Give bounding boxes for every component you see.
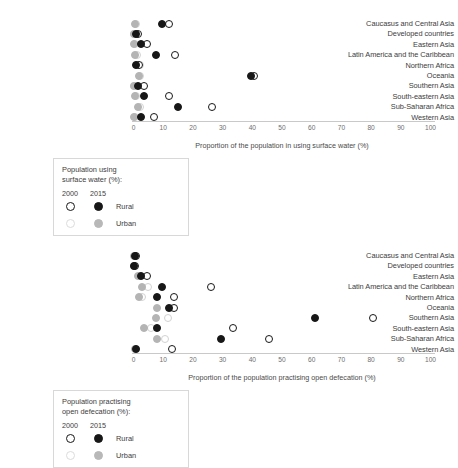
data-point-rural-2015	[158, 20, 166, 28]
legend-title-open-defecation: Population practising open defecation (%…	[62, 397, 182, 416]
data-point-rural-2015	[134, 82, 142, 90]
category-label-south-eastern-asia: South-eastern Asia	[330, 323, 458, 334]
legend-col-2015: 2015	[90, 189, 106, 198]
data-point-rural-2015	[311, 314, 319, 322]
chart-row: Northern Africa	[0, 60, 458, 71]
data-point-rural-2000	[171, 51, 179, 59]
data-point-rural-2015	[174, 103, 182, 111]
x-axis-line-open-defecation	[132, 353, 435, 354]
legend-title-line1: Population practising	[62, 397, 131, 406]
x-tick-label: 60	[308, 356, 315, 363]
category-label-eastern-asia: Eastern Asia	[330, 39, 458, 50]
data-point-rural-2000	[170, 293, 178, 301]
x-tick-label: 0	[132, 356, 136, 363]
chart-row: South-eastern Asia	[0, 91, 458, 102]
legend-label-rural: Rural	[116, 202, 134, 211]
plot-area-surface-water: Caucasus and Central AsiaDeveloped count…	[0, 0, 458, 120]
legend-label-urban: Urban	[116, 219, 136, 228]
legend-marker-rural-2000	[66, 202, 75, 211]
legend-marker-rural-2015	[94, 202, 103, 211]
legend-open-defecation: Population practising open defecation (%…	[53, 390, 189, 468]
x-tick-label: 50	[278, 124, 285, 131]
data-point-urban-2015	[140, 324, 148, 332]
category-label-latin-america-and-the-caribbean: Latin America and the Caribbean	[330, 281, 458, 292]
category-label-developed-countries: Developed countries	[330, 260, 458, 271]
x-axis-title-open-defecation: Proportion of the population practising …	[114, 373, 451, 382]
category-label-northern-africa: Northern Africa	[330, 60, 458, 71]
x-tick-label: 40	[249, 356, 256, 363]
x-tick-label: 50	[278, 356, 285, 363]
data-point-rural-2015	[153, 324, 161, 332]
data-point-rural-2000	[208, 103, 216, 111]
chart-row: Caucasus and Central Asia	[0, 18, 458, 29]
data-point-rural-2000	[369, 314, 377, 322]
x-tick-label: 90	[397, 124, 404, 131]
data-point-rural-2000	[165, 92, 173, 100]
x-tick-label: 10	[160, 124, 167, 131]
legend-marker-urban-2015	[94, 451, 103, 460]
chart-row: Oceania	[0, 70, 458, 81]
data-point-rural-2015	[217, 335, 225, 343]
legend-surface-water: Population using surface water (%): 2000…	[53, 158, 189, 236]
data-point-rural-2000	[165, 20, 173, 28]
data-point-rural-2000	[229, 324, 237, 332]
x-tick-label: 70	[338, 124, 345, 131]
legend-title-surface-water: Population using surface water (%):	[62, 165, 182, 184]
x-axis-title-surface-water: Proportion of the population in using su…	[114, 141, 451, 150]
legend-marker-rural-2000	[66, 434, 75, 443]
legend-label-urban: Urban	[116, 451, 136, 460]
x-tick-label: 30	[219, 356, 226, 363]
chart-row: Latin America and the Caribbean	[0, 49, 458, 60]
category-label-south-eastern-asia: South-eastern Asia	[330, 91, 458, 102]
x-tick-label: 70	[338, 356, 345, 363]
data-point-urban-2000	[161, 335, 169, 343]
x-tick-label: 60	[308, 124, 315, 131]
x-tick-label: 80	[367, 356, 374, 363]
category-label-caucasus-and-central-asia: Caucasus and Central Asia	[330, 250, 458, 261]
data-point-rural-2015	[158, 283, 166, 291]
chart-row: Developed countries	[0, 260, 458, 271]
category-label-sub-saharan-africa: Sub-Saharan Africa	[330, 101, 458, 112]
category-label-oceania: Oceania	[330, 70, 458, 81]
x-axis-line-surface-water	[132, 121, 435, 122]
x-tick-label: 40	[249, 124, 256, 131]
data-point-rural-2015	[132, 345, 140, 353]
category-label-northern-africa: Northern Africa	[330, 292, 458, 303]
chart-row: Eastern Asia	[0, 39, 458, 50]
data-point-rural-2015	[140, 92, 148, 100]
x-tick-label: 20	[189, 124, 196, 131]
chart-row: Southern Asia	[0, 80, 458, 91]
data-point-rural-2015	[137, 113, 145, 121]
chart-row: Caucasus and Central Asia	[0, 250, 458, 261]
category-label-developed-countries: Developed countries	[330, 28, 458, 39]
data-point-urban-2015	[131, 20, 139, 28]
legend-marker-rural-2015	[94, 434, 103, 443]
legend-title-line1: Population using	[62, 165, 117, 174]
legend-col-2000: 2000	[62, 421, 78, 430]
data-point-urban-2000	[164, 314, 172, 322]
chart-row: Sub-Saharan Africa	[0, 101, 458, 112]
legend-col-2015: 2015	[90, 421, 106, 430]
legend-col-2000: 2000	[62, 189, 78, 198]
x-tick-label: 20	[189, 356, 196, 363]
chart-row: Latin America and the Caribbean	[0, 281, 458, 292]
legend-marker-urban-2000	[66, 451, 75, 460]
x-tick-label: 0	[132, 124, 136, 131]
legend-title-line2: open defecation (%):	[62, 407, 130, 416]
x-tick-label: 90	[397, 356, 404, 363]
data-point-rural-2000	[207, 283, 215, 291]
chart-row: Sub-Saharan Africa	[0, 333, 458, 344]
data-point-urban-2015	[134, 103, 142, 111]
chart-row: Oceania	[0, 302, 458, 313]
category-label-sub-saharan-africa: Sub-Saharan Africa	[330, 333, 458, 344]
data-point-urban-2015	[153, 304, 161, 312]
data-point-urban-2015	[152, 314, 160, 322]
data-point-rural-2015	[247, 72, 255, 80]
category-label-eastern-asia: Eastern Asia	[330, 271, 458, 282]
data-point-urban-2015	[131, 51, 139, 59]
data-point-urban-2015	[153, 335, 161, 343]
legend-label-rural: Rural	[116, 434, 134, 443]
x-tick-label: 10	[160, 356, 167, 363]
category-label-southern-asia: Southern Asia	[330, 80, 458, 91]
